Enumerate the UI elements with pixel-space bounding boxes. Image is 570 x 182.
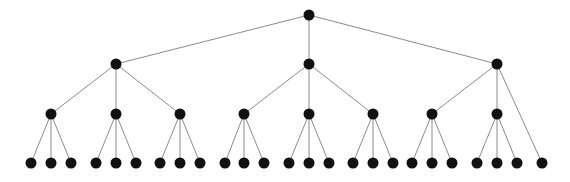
tree-edge (309, 15, 497, 64)
leaf-node (472, 158, 483, 169)
tree-edge (432, 64, 497, 114)
leaf-node (131, 158, 142, 169)
tree-edge (412, 114, 432, 163)
root-node (304, 10, 315, 21)
tree-edge (116, 64, 180, 114)
leaf-node (368, 158, 379, 169)
tree-diagram (0, 0, 570, 182)
leaf-node (111, 158, 122, 169)
tree-node (46, 109, 57, 120)
tree-edge (309, 114, 329, 163)
tree-edge (116, 114, 136, 163)
tree-node (492, 59, 503, 70)
tree-edges (31, 15, 542, 163)
leaf-node (304, 158, 315, 169)
tree-edge (96, 114, 116, 163)
tree-node (111, 59, 122, 70)
tree-edge (31, 114, 51, 163)
tree-node (239, 109, 250, 120)
tree-edge (289, 114, 309, 163)
leaf-node (324, 158, 335, 169)
tree-edge (477, 114, 497, 163)
leaf-node (175, 158, 186, 169)
tree-edge (244, 114, 264, 163)
tree-node (175, 109, 186, 120)
leaf-node (447, 158, 458, 169)
leaf-node (66, 158, 77, 169)
tree-node (304, 59, 315, 70)
leaf-node (46, 158, 57, 169)
leaf-node (388, 158, 399, 169)
tree-node (427, 109, 438, 120)
tree-edge (51, 114, 71, 163)
tree-node (111, 109, 122, 120)
tree-edge (244, 64, 309, 114)
tree-edge (373, 114, 393, 163)
leaf-node (239, 158, 250, 169)
leaf-node (512, 158, 523, 169)
tree-edge (497, 64, 542, 163)
tree-edge (497, 114, 517, 163)
tree-edge (353, 114, 373, 163)
leaf-node (220, 158, 231, 169)
leaf-node (348, 158, 359, 169)
leaf-node (284, 158, 295, 169)
leaf-node (537, 158, 548, 169)
leaf-node (492, 158, 503, 169)
leaf-node (427, 158, 438, 169)
leaf-node (155, 158, 166, 169)
tree-edge (309, 64, 373, 114)
tree-edge (225, 114, 244, 163)
leaf-node (26, 158, 37, 169)
tree-node (304, 109, 315, 120)
leaf-node (407, 158, 418, 169)
tree-edge (160, 114, 180, 163)
leaf-node (259, 158, 270, 169)
tree-node (368, 109, 379, 120)
tree-edge (51, 64, 116, 114)
tree-edge (180, 114, 200, 163)
tree-node (492, 109, 503, 120)
leaf-node (195, 158, 206, 169)
leaf-node (91, 158, 102, 169)
tree-edge (432, 114, 452, 163)
tree-edge (116, 15, 309, 64)
